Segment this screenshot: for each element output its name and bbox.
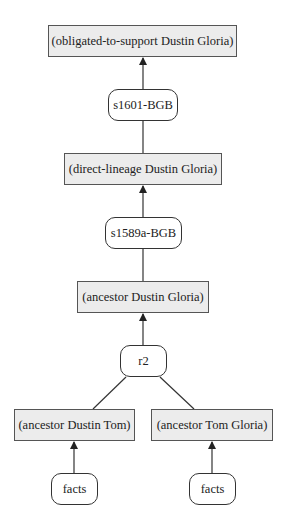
node-label: facts bbox=[201, 482, 225, 497]
node-rule-s1589a-bgb[interactable]: s1589a-BGB bbox=[105, 217, 182, 249]
node-label: (direct-lineage Dustin Gloria) bbox=[69, 162, 218, 177]
node-label: (obligated-to-support Dustin Gloria) bbox=[52, 34, 234, 49]
node-label: (ancestor Tom Gloria) bbox=[157, 418, 268, 433]
node-ancestor-tom-gloria[interactable]: (ancestor Tom Gloria) bbox=[151, 409, 273, 441]
node-facts-right[interactable]: facts bbox=[189, 473, 236, 505]
node-label: s1601-BGB bbox=[113, 98, 173, 113]
edge-ancestor-tg-to-r2 bbox=[160, 377, 194, 409]
node-label: facts bbox=[63, 482, 87, 497]
node-label: (ancestor Dustin Tom) bbox=[18, 418, 130, 433]
node-ancestor-dustin-tom[interactable]: (ancestor Dustin Tom) bbox=[14, 409, 135, 441]
node-label: (ancestor Dustin Gloria) bbox=[82, 290, 204, 305]
node-rule-s1601-bgb[interactable]: s1601-BGB bbox=[108, 89, 178, 121]
node-direct-lineage[interactable]: (direct-lineage Dustin Gloria) bbox=[64, 153, 222, 185]
node-rule-r2[interactable]: r2 bbox=[120, 345, 167, 377]
edges-layer bbox=[0, 0, 286, 530]
node-ancestor-dustin-gloria[interactable]: (ancestor Dustin Gloria) bbox=[77, 281, 209, 313]
edge-ancestor-dt-to-r2 bbox=[93, 377, 126, 409]
node-label: s1589a-BGB bbox=[111, 226, 176, 241]
node-facts-left[interactable]: facts bbox=[51, 473, 98, 505]
node-obligated-to-support[interactable]: (obligated-to-support Dustin Gloria) bbox=[48, 25, 237, 57]
node-label: r2 bbox=[138, 354, 148, 369]
